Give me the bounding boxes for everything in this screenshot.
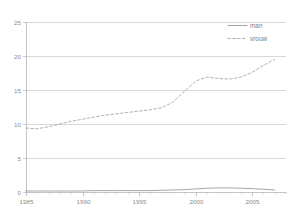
chart-legend: man vrouw [228,22,267,42]
legend-label-man: man [250,22,263,29]
x-tick-label: 2000 [190,198,204,205]
y-tick-label: 15 [14,87,21,94]
x-tick-label: 1995 [133,198,147,205]
y-tick-label: 5 [18,155,22,162]
gridlines [26,23,286,159]
series-line-vrouw [26,59,275,128]
chart-axes [26,22,286,192]
x-tick-label: 1985 [20,198,34,205]
series-line-man [26,188,275,191]
y-tick-label: 20 [14,53,21,60]
line-chart: 0510152025 19851990199520002005 man vrou… [0,0,290,220]
x-axis-ticks: 19851990199520002005 [20,192,260,205]
data-series [26,59,275,191]
y-tick-label: 0 [18,189,22,196]
y-tick-label: 25 [14,19,21,26]
x-tick-label: 2005 [246,198,260,205]
x-tick-label: 1990 [77,198,91,205]
legend-label-vrouw: vrouw [250,35,267,42]
y-tick-label: 10 [14,121,21,128]
chart-canvas: 0510152025 19851990199520002005 man vrou… [0,0,290,220]
y-axis-ticks: 0510152025 [14,19,26,196]
